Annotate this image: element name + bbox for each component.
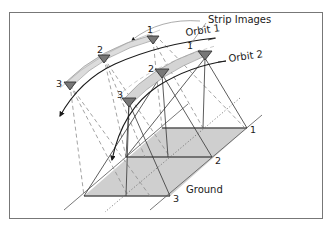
satellite-icon xyxy=(64,82,76,90)
orbit1-pos-2-label: 2 xyxy=(97,44,103,55)
orbit2-pos-2-label: 2 xyxy=(148,63,154,74)
orbit2-pos-1-label: 1 xyxy=(187,40,193,51)
orbit1-pos-3-label: 3 xyxy=(56,78,62,89)
stereo-imaging-diagram: 1 2 3 1 2 3 1 2 3 Strip Images Orbit 1 O… xyxy=(0,0,331,226)
orbit1-label: Orbit 1 xyxy=(185,22,221,38)
ground-pos-2-label: 2 xyxy=(215,155,221,166)
orbit1-pos-1-label: 1 xyxy=(147,24,153,35)
orbit2-label-tick xyxy=(218,61,226,62)
ground-plane xyxy=(64,98,262,212)
orbit2-strip-image xyxy=(124,50,205,104)
orbit2-label: Orbit 2 xyxy=(228,48,264,64)
orbit2-pos-3-label: 3 xyxy=(117,89,123,100)
ground-label: Ground xyxy=(186,184,223,195)
ground-pos-1-label: 1 xyxy=(250,124,256,135)
orbit2-satellites xyxy=(122,51,212,107)
ground-pos-3-label: 3 xyxy=(173,193,179,204)
